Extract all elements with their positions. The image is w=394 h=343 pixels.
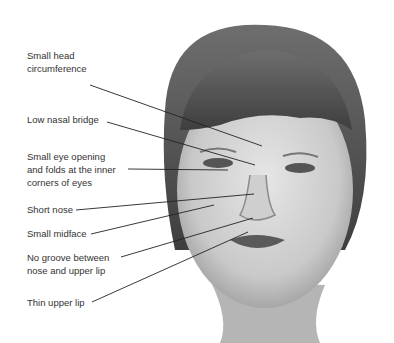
right-eye — [285, 163, 315, 173]
label-eye-opening: Small eye opening and folds at the inner… — [27, 150, 116, 189]
label-head-circumference: Small head circumference — [27, 49, 87, 75]
label-upper-lip: Thin upper lip — [27, 296, 85, 309]
left-eye — [203, 158, 233, 168]
label-midface: Small midface — [27, 227, 87, 240]
label-groove: No groove between nose and upper lip — [27, 251, 109, 277]
label-nasal-bridge: Low nasal bridge — [27, 113, 99, 126]
diagram-canvas: Small head circumference Low nasal bridg… — [0, 0, 394, 343]
label-short-nose: Short nose — [27, 203, 73, 216]
